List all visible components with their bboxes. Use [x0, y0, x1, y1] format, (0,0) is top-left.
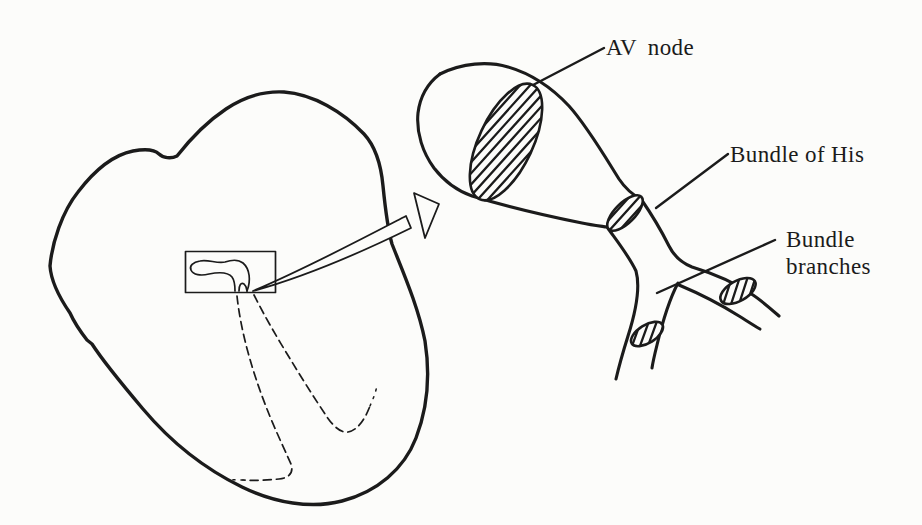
bundle-branches-label-line2: branches [786, 253, 871, 280]
conduction-system-figure: AV node Bundle of His Bundle branches [0, 0, 922, 525]
bundle-of-his-label: Bundle of His [730, 141, 864, 168]
inset-av-junction-loop [239, 283, 247, 291]
dashed-septum-right-fade [370, 385, 377, 406]
dashed-septum-right-loop [254, 295, 370, 432]
figure-drawing [0, 0, 922, 525]
bundle-branches-label: Bundle branches [786, 226, 871, 280]
av-node-leader-line [533, 48, 604, 85]
heart-outline [50, 92, 428, 505]
bundle-branches-label-line1: Bundle [786, 226, 871, 253]
zoom-arrow-head [414, 193, 439, 238]
bundle-branches-leader-line [657, 240, 775, 293]
av-node-label: AV node [606, 34, 694, 61]
bundle-of-his-leader-line [656, 154, 728, 208]
dashed-septum-left-loop [237, 296, 292, 480]
right-bundle-branch-hatched-ellipse [706, 259, 764, 320]
zoom-arrow-tail [253, 216, 411, 291]
bundle-of-his-hatched-ellipse [583, 171, 668, 256]
inset-av-junction-shape [190, 260, 249, 291]
